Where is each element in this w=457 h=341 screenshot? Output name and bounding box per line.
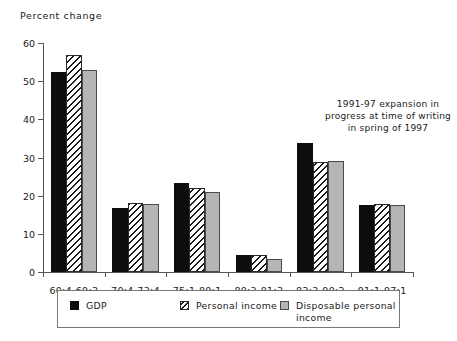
bar-82:3-90:2-gdp <box>297 143 313 272</box>
y-tick-label: 40 <box>23 114 35 125</box>
legend-label-personal-income: Personal income <box>196 300 277 312</box>
bar-82:3-90:2-personal-income <box>313 162 329 272</box>
y-tick-label: 0 <box>29 267 35 278</box>
legend-item-gdp: GDP <box>70 300 107 312</box>
legend-item-personal-income: Personal income <box>180 300 277 312</box>
legend-swatch-disposable-personal-income-icon <box>280 301 289 310</box>
legend-label-disposable-personal-income: Disposable personal income <box>296 300 396 323</box>
y-tick-mark <box>38 119 43 120</box>
bar-80:3-81:3-disposable-personal-income <box>267 259 283 272</box>
bar-82:3-90:2-disposable-personal-income <box>328 161 344 272</box>
bar-70:4-73:4-disposable-personal-income <box>143 204 159 272</box>
y-tick-label: 50 <box>23 76 35 87</box>
x-tick-mark <box>413 272 414 277</box>
legend-swatch-gdp-icon <box>70 301 79 310</box>
legend-label-gdp: GDP <box>86 300 107 312</box>
y-axis-title: Percent change <box>20 10 102 21</box>
plot-area: 0102030405060 60:4-69:370:4-73:475:1-80:… <box>43 43 413 272</box>
x-tick-mark <box>105 272 106 277</box>
y-tick-mark <box>38 81 43 82</box>
y-tick-label: 10 <box>23 228 35 239</box>
bar-75:1-80:1-personal-income <box>189 188 205 272</box>
bar-60:4-69:3-disposable-personal-income <box>82 70 98 272</box>
x-tick-mark <box>166 272 167 277</box>
y-axis-line <box>43 43 44 272</box>
y-tick-label: 30 <box>23 152 35 163</box>
bar-91:1-97:1-disposable-personal-income <box>390 205 406 272</box>
y-tick-mark <box>38 234 43 235</box>
y-tick-mark <box>38 158 43 159</box>
percent-change-bar-chart: Percent change 0102030405060 60:4-69:370… <box>0 0 457 341</box>
bar-60:4-69:3-personal-income <box>66 55 82 272</box>
bar-91:1-97:1-gdp <box>359 205 375 272</box>
bar-75:1-80:1-gdp <box>174 183 190 272</box>
x-tick-mark <box>351 272 352 277</box>
legend-swatch-personal-income-icon <box>180 301 189 310</box>
bar-60:4-69:3-gdp <box>51 72 67 272</box>
x-tick-mark <box>43 272 44 277</box>
bar-70:4-73:4-gdp <box>112 208 128 272</box>
y-tick-mark <box>38 43 43 44</box>
bar-80:3-81:3-gdp <box>236 255 252 272</box>
y-tick-label: 60 <box>23 38 35 49</box>
x-tick-mark <box>290 272 291 277</box>
y-tick-label: 20 <box>23 190 35 201</box>
expansion-annotation: 1991-97 expansion in progress at time of… <box>322 98 454 135</box>
legend-item-disposable-personal-income: Disposable personal income <box>280 300 396 323</box>
bar-80:3-81:3-personal-income <box>251 255 267 272</box>
bar-91:1-97:1-personal-income <box>374 204 390 272</box>
x-tick-mark <box>228 272 229 277</box>
chart-legend: GDP Personal income Disposable personal … <box>57 290 400 328</box>
y-tick-mark <box>38 196 43 197</box>
bar-70:4-73:4-personal-income <box>128 203 144 272</box>
bar-75:1-80:1-disposable-personal-income <box>205 192 221 272</box>
